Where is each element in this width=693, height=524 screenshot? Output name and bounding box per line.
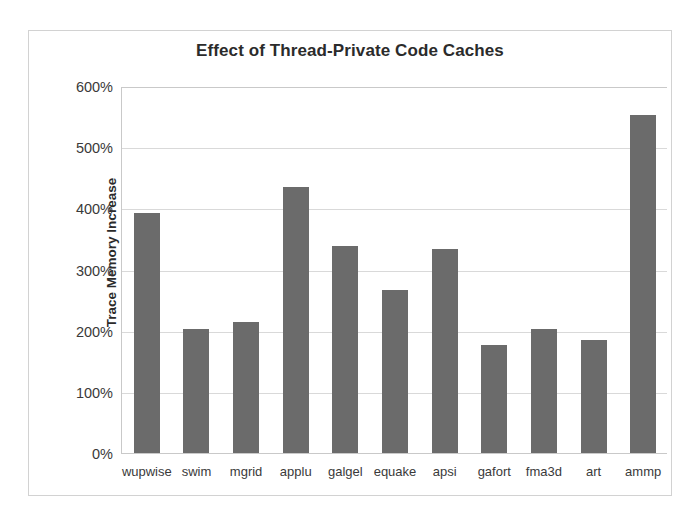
x-axis-tick-label: swim	[182, 464, 212, 479]
x-axis-tick-label: ammp	[625, 464, 661, 479]
bar	[481, 345, 507, 453]
x-axis-tick-label: art	[586, 464, 601, 479]
bar-group: ammp	[618, 87, 668, 453]
y-axis-tick-label: 400%	[76, 201, 113, 217]
bar	[233, 322, 259, 454]
y-axis-tick-label: 300%	[76, 263, 113, 279]
y-axis-tick-label: 600%	[76, 79, 113, 95]
bar	[134, 213, 160, 453]
bar-group: galgel	[321, 87, 371, 453]
bar	[432, 249, 458, 453]
bar	[630, 115, 656, 453]
x-axis-tick-label: gafort	[478, 464, 511, 479]
y-axis-tick-label: 500%	[76, 140, 113, 156]
bar-group: mgrid	[221, 87, 271, 453]
bar	[531, 329, 557, 453]
x-axis-tick-label: apsi	[433, 464, 457, 479]
bar-group: applu	[271, 87, 321, 453]
bar	[382, 290, 408, 453]
x-axis-tick-label: mgrid	[230, 464, 263, 479]
bar-group: gafort	[469, 87, 519, 453]
bar-group: fma3d	[519, 87, 569, 453]
chart-title: Effect of Thread-Private Code Caches	[29, 41, 671, 61]
bar	[581, 340, 607, 453]
x-axis-tick-label: galgel	[328, 464, 363, 479]
x-axis-tick-label: fma3d	[526, 464, 562, 479]
x-axis-tick-label: equake	[374, 464, 417, 479]
chart-frame: Effect of Thread-Private Code Caches Tra…	[28, 30, 672, 496]
bar-group: apsi	[420, 87, 470, 453]
plot-area: 0%100%200%300%400%500%600% wupwiseswimmg…	[121, 87, 667, 454]
x-axis-tick-label: wupwise	[122, 464, 172, 479]
bar-series: wupwiseswimmgridapplugalgelequakeapsigaf…	[122, 87, 667, 453]
y-axis-tick-label: 200%	[76, 324, 113, 340]
x-axis-tick-label: applu	[280, 464, 312, 479]
bar-group: swim	[172, 87, 222, 453]
bar-group: art	[569, 87, 619, 453]
bar	[332, 246, 358, 453]
bar-group: equake	[370, 87, 420, 453]
y-axis-tick-label: 0%	[92, 446, 113, 462]
bar	[283, 187, 309, 453]
y-axis-tick-label: 100%	[76, 385, 113, 401]
bar-group: wupwise	[122, 87, 172, 453]
bar	[183, 329, 209, 453]
